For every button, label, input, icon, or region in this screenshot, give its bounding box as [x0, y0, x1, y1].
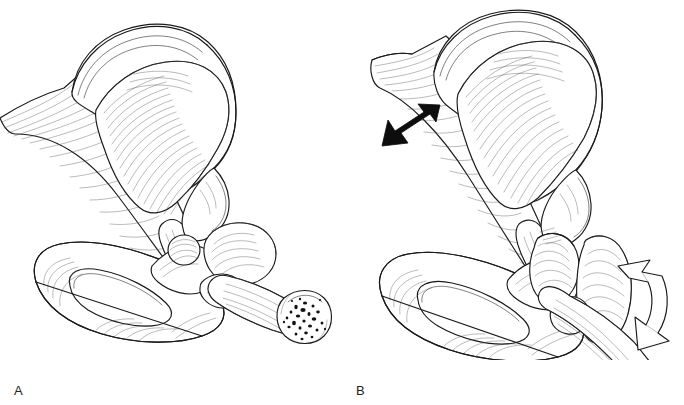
- panel-a-label: A: [14, 384, 23, 397]
- femoral-shaft-cross-section-a: [277, 291, 332, 344]
- panel-b-illustration: [342, 0, 684, 360]
- panel-a-illustration: [0, 0, 342, 360]
- panel-a: A: [0, 0, 342, 405]
- femoral-head-a: [168, 235, 200, 265]
- panel-b: B: [342, 0, 684, 405]
- figure-root: A: [0, 0, 684, 405]
- panel-b-label: B: [356, 384, 365, 397]
